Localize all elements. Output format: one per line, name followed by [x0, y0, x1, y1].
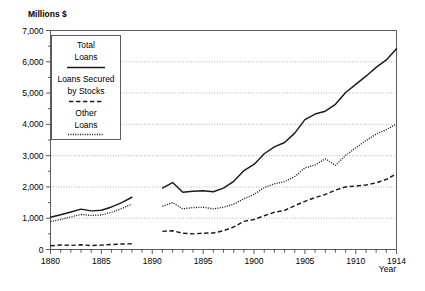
x-axis-ticks — [51, 250, 397, 255]
x-tick-label: 1890 — [143, 256, 162, 266]
x-axis-tick-labels: 18801885189018951900190519101914 — [41, 256, 406, 266]
y-tick-label: 5,000 — [22, 88, 44, 98]
y-tick-label: 4,000 — [22, 119, 44, 129]
series-line-total-loans — [162, 49, 396, 193]
y-tick-label: 2,000 — [22, 182, 44, 192]
legend-item-other-line2: Loans — [74, 120, 97, 130]
chart-legend: Total Loans Loans Secured by Stocks Othe… — [52, 36, 121, 140]
x-tick-label: 1905 — [295, 256, 314, 266]
y-axis-ticks — [46, 31, 51, 250]
legend-item-total-line2: Loans — [74, 52, 97, 62]
series-line-other-loans — [162, 124, 396, 209]
x-tick-label: 1880 — [41, 256, 60, 266]
series-line-loans-secured-by-stocks — [51, 244, 132, 246]
chart-container: Millions $ 01,0002,0003,0004,0005,0006,0… — [0, 0, 425, 291]
series-line-total-loans — [51, 197, 132, 217]
y-axis-unit-label: Millions $ — [28, 9, 67, 19]
x-axis-title: Year — [379, 264, 396, 274]
x-tick-label: 1885 — [92, 256, 111, 266]
loans-line-chart: Millions $ 01,0002,0003,0004,0005,0006,0… — [0, 0, 425, 291]
legend-item-secured-line2: by Stocks — [68, 86, 105, 96]
series-line-other-loans — [51, 204, 132, 222]
y-tick-label: 1,000 — [22, 213, 44, 223]
legend-item-secured-line1: Loans Secured — [57, 74, 114, 84]
x-tick-label: 1900 — [245, 256, 264, 266]
y-tick-label: 0 — [39, 245, 44, 255]
y-tick-label: 7,000 — [22, 26, 44, 36]
legend-item-total-line1: Total — [77, 40, 95, 50]
x-tick-label: 1910 — [346, 256, 365, 266]
legend-item-other-line1: Other — [75, 108, 96, 118]
x-tick-label: 1895 — [194, 256, 213, 266]
y-tick-label: 6,000 — [22, 57, 44, 67]
y-axis-tick-labels: 01,0002,0003,0004,0005,0006,0007,000 — [22, 26, 44, 255]
y-tick-label: 3,000 — [22, 151, 44, 161]
